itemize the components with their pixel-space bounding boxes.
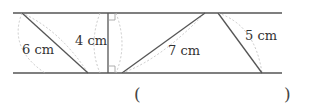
answer-open-paren: ( [134,84,141,104]
label-6cm: 6 cm [22,42,54,57]
right-angle-marker-bottom [108,66,115,73]
answer-close-paren: ) [284,84,291,104]
right-angle-marker-top [108,13,115,20]
answer-blank[interactable] [145,84,275,104]
label-5cm: 5 cm [245,28,277,43]
label-7cm: 7 cm [168,43,200,58]
segment-5cm [218,13,262,73]
guide-arc-2b [116,13,122,73]
label-4cm: 4 cm [75,33,107,48]
